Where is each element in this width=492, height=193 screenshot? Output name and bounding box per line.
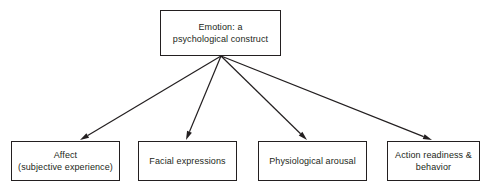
node-physiological-arousal-label: Physiological arousal [266, 155, 359, 167]
arrow-head-physiological-arousal [299, 132, 307, 140]
arrow-shaft-action-readiness [221, 56, 424, 137]
diagram-canvas: Emotion: a psychological construct Affec… [0, 0, 492, 193]
arrow-shaft-affect [88, 56, 221, 135]
node-facial-expressions[interactable]: Facial expressions [138, 141, 237, 181]
node-physiological-arousal[interactable]: Physiological arousal [258, 141, 367, 181]
arrow-head-action-readiness [423, 134, 432, 140]
node-emotion-root-label: Emotion: a psychological construct [170, 21, 271, 45]
node-affect[interactable]: Affect (subjective experience) [11, 141, 120, 181]
node-affect-label: Affect (subjective experience) [15, 149, 116, 173]
node-facial-expressions-label: Facial expressions [146, 155, 228, 167]
arrow-shaft-facial-expressions [189, 56, 221, 132]
arrow-head-affect [80, 133, 89, 140]
arrow-head-facial-expressions [186, 131, 192, 140]
node-action-readiness[interactable]: Action readiness & behavior [387, 141, 480, 181]
node-action-readiness-label: Action readiness & behavior [392, 149, 475, 173]
arrow-shaft-physiological-arousal [221, 56, 301, 134]
node-emotion-root[interactable]: Emotion: a psychological construct [160, 10, 281, 56]
